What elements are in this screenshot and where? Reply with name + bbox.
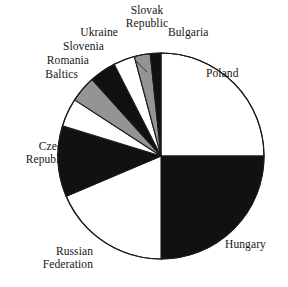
pie-label-hungary: Hungary [225, 238, 266, 251]
pie-label-czech-republic: Czech Republic [26, 140, 68, 166]
pie-chart-figure: PolandHungaryRussian FederationCzech Rep… [0, 0, 288, 287]
pie-label-slovenia: Slovenia [63, 40, 104, 53]
pie-slices-group [58, 53, 264, 259]
pie-label-baltics: Baltics [45, 68, 78, 81]
pie-label-slovak-republic: Slovak Republic [126, 4, 168, 30]
pie-label-russian-federation: Russian Federation [43, 245, 93, 271]
pie-label-poland: Poland [206, 67, 239, 80]
pie-label-romania: Romania [47, 54, 89, 67]
pie-label-bulgaria: Bulgaria [168, 26, 208, 39]
pie-label-ukraine: Ukraine [80, 26, 118, 39]
